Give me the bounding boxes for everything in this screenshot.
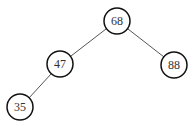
node-label: 68 <box>111 14 123 28</box>
edge-47-35 <box>29 74 51 98</box>
tree-node-88: 88 <box>161 52 187 78</box>
node-label: 88 <box>168 58 180 72</box>
edge-68-47 <box>71 29 106 56</box>
tree-node-35: 35 <box>7 94 33 120</box>
node-label: 35 <box>14 100 26 114</box>
tree-node-47: 47 <box>47 51 73 77</box>
binary-tree-diagram: 68 47 88 35 <box>0 0 192 125</box>
tree-node-68: 68 <box>104 8 130 34</box>
node-label: 47 <box>54 57 66 71</box>
edge-68-88 <box>128 29 164 57</box>
